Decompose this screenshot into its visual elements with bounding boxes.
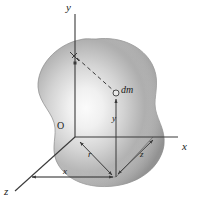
z-coordinate-label: z xyxy=(140,150,144,159)
mass-element-dot xyxy=(113,90,119,96)
z-axis-label: z xyxy=(4,186,8,197)
x-axis-label: x xyxy=(182,141,187,152)
y-axis-label: y xyxy=(66,2,71,13)
diagram-canvas xyxy=(0,0,206,207)
perpendicular-square-tick xyxy=(74,62,77,65)
y-coordinate-label: y xyxy=(112,114,116,123)
radial-distance-label: r xyxy=(88,150,92,159)
x-coordinate-label: x xyxy=(63,167,67,176)
origin-label: O xyxy=(57,121,64,131)
mass-element-diagram: y x z O dm y r z x xyxy=(0,0,206,207)
mass-element-label: dm xyxy=(121,85,133,95)
